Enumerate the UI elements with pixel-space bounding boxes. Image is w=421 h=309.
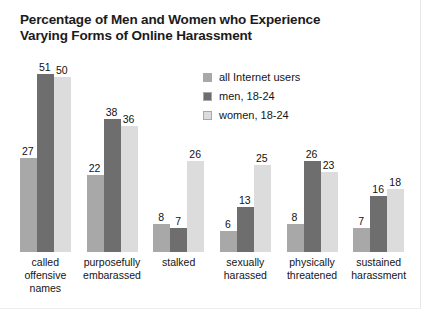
bar-group: 223836 — [87, 60, 138, 252]
x-axis-tick-label-line: purposefully — [84, 256, 141, 268]
bar-rect — [170, 228, 187, 252]
bar[interactable]: 36 — [121, 60, 138, 252]
bar-rect — [121, 126, 138, 252]
x-axis-tick-label-line: called — [32, 256, 59, 268]
bar[interactable]: 23 — [321, 60, 338, 252]
bar-group-bars: 82623 — [287, 60, 338, 252]
bar-group: 8726 — [153, 60, 204, 252]
x-axis-tick-label: physicallythreatened — [279, 256, 346, 282]
bar-group: 82623 — [287, 60, 338, 252]
bar-group: 71618 — [353, 60, 404, 252]
bar[interactable]: 27 — [20, 60, 37, 252]
x-axis-tick-label-line: harassment — [351, 269, 406, 281]
x-axis-tick-label-line: sustained — [356, 256, 401, 268]
bar-rect — [254, 165, 271, 252]
x-axis-tick-label-line: physically — [289, 256, 335, 268]
bar-rect — [370, 196, 387, 252]
bar[interactable]: 50 — [54, 60, 71, 252]
bar[interactable]: 6 — [220, 60, 237, 252]
bar[interactable]: 16 — [370, 60, 387, 252]
bar[interactable]: 51 — [37, 60, 54, 252]
bar-rect — [37, 74, 54, 252]
bar-rect — [387, 189, 404, 252]
bar-value-label: 50 — [48, 64, 76, 76]
x-axis-tick-label-line: stalked — [162, 256, 195, 268]
x-axis-tick-label-line: embarassed — [83, 269, 141, 281]
chart-title-line-1: Percentage of Men and Women who Experien… — [20, 12, 320, 27]
bar-rect — [353, 228, 370, 252]
x-axis-tick-label: stalked — [145, 256, 212, 269]
bar-value-label: 18 — [381, 176, 409, 188]
bar-rect — [187, 161, 204, 252]
bar[interactable]: 22 — [87, 60, 104, 252]
x-axis-tick-label-line: names — [30, 282, 62, 294]
bar-rect — [304, 161, 321, 252]
bar-value-label: 26 — [181, 148, 209, 160]
bar-group-bars: 275150 — [20, 60, 71, 252]
bar[interactable]: 26 — [304, 60, 321, 252]
bar-chart: Percentage of Men and Women who Experien… — [0, 0, 421, 309]
bar-value-label: 36 — [115, 113, 143, 125]
bar[interactable]: 18 — [387, 60, 404, 252]
bar[interactable]: 25 — [254, 60, 271, 252]
x-axis-tick-label-line: harassed — [224, 269, 267, 281]
plot-area: 2751502238368726613258262371618 — [12, 60, 412, 252]
bar-rect — [321, 172, 338, 252]
bar-rect — [237, 207, 254, 252]
bar-rect — [54, 77, 71, 252]
bar-group-bars: 71618 — [353, 60, 404, 252]
bar[interactable]: 38 — [104, 60, 121, 252]
bar-group: 61325 — [220, 60, 271, 252]
bar-rect — [220, 231, 237, 252]
bar-rect — [87, 175, 104, 252]
x-axis-tick-label: calledoffensivenames — [12, 256, 79, 295]
bar-value-label: 23 — [315, 159, 343, 171]
x-axis-tick-label: purposefullyembarassed — [79, 256, 146, 282]
chart-title-line-2: Varying Forms of Online Harassment — [20, 28, 252, 43]
bar-group-bars: 61325 — [220, 60, 271, 252]
bar-group: 275150 — [20, 60, 71, 252]
x-axis-tick-label-line: sexually — [226, 256, 264, 268]
bar-group-bars: 223836 — [87, 60, 138, 252]
bar-group-bars: 8726 — [153, 60, 204, 252]
chart-title: Percentage of Men and Women who Experien… — [20, 12, 410, 45]
x-axis-tick-label: sustainedharassment — [345, 256, 412, 282]
bar-value-label: 25 — [248, 152, 276, 164]
bar-rect — [104, 119, 121, 252]
x-axis-tick-label-line: offensive — [24, 269, 66, 281]
bar[interactable]: 7 — [353, 60, 370, 252]
x-axis-tick-label-line: threatened — [287, 269, 337, 281]
bar-rect — [287, 224, 304, 252]
x-axis-labels: calledoffensivenamespurposefullyembarass… — [12, 256, 412, 306]
bar-rect — [153, 224, 170, 252]
bar[interactable]: 26 — [187, 60, 204, 252]
bar-rect — [20, 158, 37, 252]
x-axis-tick-label: sexuallyharassed — [212, 256, 279, 282]
